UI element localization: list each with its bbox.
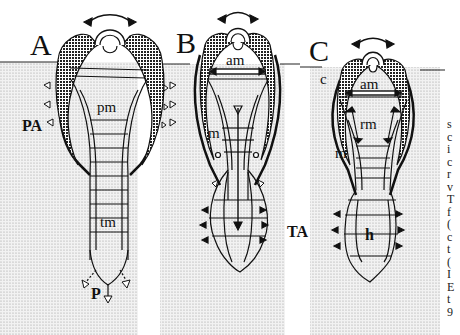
panel-label-b: B [176, 28, 196, 58]
edge-text: s c i c r v T f ( c t ( I E t 9 [447, 118, 454, 318]
label-p: P [91, 286, 101, 302]
label-h: h [365, 227, 374, 243]
panel-label-a: A [30, 30, 52, 60]
label-c: c [320, 72, 327, 87]
label-rm: rm [360, 117, 377, 132]
label-pm: pm [97, 100, 116, 115]
panel-label-c: C [309, 36, 329, 66]
label-pa: PA [22, 118, 42, 134]
label-tm: tm [100, 215, 116, 230]
label-am-b: am [226, 53, 244, 68]
label-m-b: m [208, 126, 220, 141]
label-ta: TA [287, 224, 308, 240]
label-am-c: am [360, 77, 378, 92]
sediment-C [310, 67, 440, 335]
label-m-c: m [335, 146, 347, 161]
figure-canvas: A B C pm PA tm P am m TA c am rm m h s c… [0, 0, 460, 335]
diagram-svg [0, 0, 460, 335]
